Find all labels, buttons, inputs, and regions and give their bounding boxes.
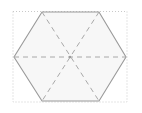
figure-canvas bbox=[0, 0, 142, 113]
hexagon-diagram bbox=[0, 0, 142, 113]
center-point-marker bbox=[69, 56, 71, 58]
